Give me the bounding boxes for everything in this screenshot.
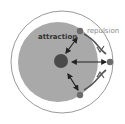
particle-top bbox=[77, 28, 83, 34]
particle-bottom bbox=[77, 92, 83, 98]
diagram-canvas: attraction repulsion bbox=[0, 0, 125, 124]
attraction-label: attraction bbox=[38, 33, 77, 41]
center-dot bbox=[54, 54, 68, 68]
repulsion-label: repulsion bbox=[87, 27, 119, 35]
particle-right bbox=[107, 59, 113, 65]
